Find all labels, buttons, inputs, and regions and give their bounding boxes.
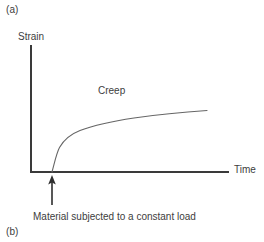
panel-label-b: (b): [6, 226, 19, 238]
load-annotation-caption: Material subjected to a constant load: [33, 211, 196, 223]
creep-curve-figure: (a) Strain Time Creep Material subjected…: [0, 0, 264, 242]
x-axis-label: Time: [234, 164, 256, 176]
creep-region-label: Creep: [98, 85, 125, 97]
y-axis-label: Strain: [18, 31, 44, 43]
creep-curve: [52, 111, 207, 173]
